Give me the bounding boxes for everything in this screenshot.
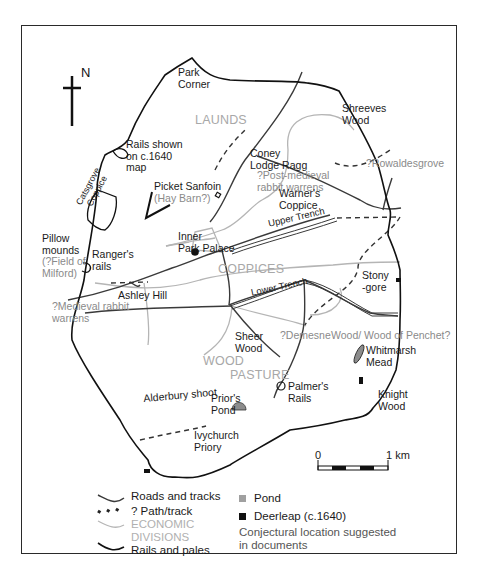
scale-start-label: 0 (315, 450, 321, 462)
legend-conjectural: Conjectural location suggestedin documen… (239, 526, 396, 552)
legend-divisions-swatch (98, 521, 124, 527)
label-shreeves-wood: ShreevesWood (342, 103, 386, 126)
legend-roads-swatch (98, 495, 124, 501)
legend-pond: Pond (239, 492, 281, 505)
north-arrow-icon (63, 76, 81, 126)
legend-roads: Roads and tracks (131, 490, 221, 503)
deerleap-swatch-icon (239, 513, 246, 520)
label-ivychurch-priory: IvychurchPriory (194, 430, 239, 453)
legend-path: ? Path/track (131, 505, 192, 518)
legend-path-swatch (97, 508, 119, 514)
label-rails-shown: Rails shownon c.1640map (126, 139, 183, 174)
label-sheer-wood: SheerWood (235, 331, 263, 354)
label-wood-of-penchet: Wood/ Wood of Penchet? (331, 330, 450, 342)
label-rowaldesgrove: ?Rowaldesgrove (366, 158, 444, 170)
division-launds: LAUNDS (195, 113, 247, 127)
label-knight-wood: KnightWood (378, 389, 408, 412)
label-palmers-rails: Palmer'sRails (288, 381, 329, 404)
label-park-corner: ParkCorner (178, 67, 210, 90)
whitmarsh-mead-feature (352, 344, 366, 365)
division-wood: WOOD (203, 354, 244, 368)
label-demesne: ?Demesne (280, 330, 331, 342)
label-priors-pond: Prior'sPond (211, 393, 240, 416)
label-inner-park-palace: InnerPark Palace (178, 231, 235, 254)
pond-swatch-icon (239, 495, 246, 502)
label-coney-lodge: ConeyLodge Ragg (250, 148, 307, 171)
legend-deerleap: Deerleap (c.1640) (239, 510, 346, 523)
scale-end-label: 1 km (386, 450, 410, 462)
division-coppices: COPPICES (218, 262, 284, 276)
division-pasture: PASTURE (230, 368, 290, 382)
legend-rails-swatch (98, 543, 124, 550)
legend-rails: Rails and pales (131, 544, 210, 557)
label-pillow-mounds: Pillowmounds (?Field ofMilford) (42, 233, 86, 279)
label-whitmarsh-mead: WhitmarshMead (366, 345, 416, 368)
label-medieval-warrens: ?Medieval rabbitwarrens (52, 301, 129, 324)
label-stony-gore: Stony-gore (362, 270, 389, 293)
legend-economic-divisions: ECONOMICDIVISIONS (131, 518, 194, 544)
label-rangers-rails: Ranger'srails (92, 249, 134, 272)
label-picket-sanfoin: Picket Sanfoin(Hay Barn?) (154, 181, 221, 204)
north-label: N (81, 65, 90, 80)
scale-bar (318, 460, 388, 470)
